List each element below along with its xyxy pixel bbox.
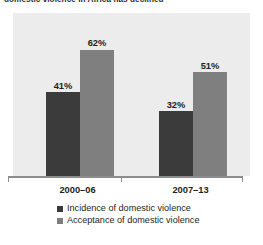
chart-title-text: domestic violence in Africa has declined	[4, 0, 164, 4]
bar-group-2007-13: 32% 51%	[134, 13, 247, 176]
bar-group-bars: 32% 51%	[134, 13, 247, 176]
bar-group-2000-06: 41% 62%	[21, 13, 134, 176]
chart-legend: Incidence of domestic violence Acceptanc…	[57, 203, 257, 227]
x-axis-label-2000-06: 2000–06	[21, 184, 134, 197]
bar-acceptance-2007-13[interactable]: 51%	[193, 72, 227, 176]
x-axis-tick-start	[8, 176, 9, 182]
legend-item-label: Acceptance of domestic violence	[67, 215, 199, 226]
plot-area: 41% 62% 32% 51%	[13, 13, 250, 176]
bar-chart-figure: 41% 62% 32% 51%	[0, 8, 263, 245]
bar-group-bars: 41% 62%	[21, 13, 134, 176]
plot-inner: 41% 62% 32% 51%	[13, 13, 250, 176]
x-axis-labels: 2000–06 2007–13	[13, 184, 250, 198]
x-axis-label-2007-13: 2007–13	[134, 184, 247, 197]
bar-incidence-2007-13[interactable]: 32%	[159, 111, 193, 176]
x-axis-tick-end	[242, 176, 243, 182]
chart-title-cropped: domestic violence in Africa has declined	[0, 0, 263, 8]
x-axis-tick-middle	[121, 176, 122, 182]
x-axis-line	[8, 176, 243, 178]
bar-acceptance-2000-06[interactable]: 62%	[80, 50, 114, 176]
legend-item-incidence[interactable]: Incidence of domestic violence	[57, 203, 257, 214]
bar-value-label: 32%	[167, 101, 186, 110]
legend-swatch-icon	[57, 218, 63, 224]
legend-swatch-icon	[57, 206, 63, 212]
legend-item-label: Incidence of domestic violence	[67, 203, 191, 214]
bar-value-label: 41%	[54, 82, 73, 91]
bar-incidence-2000-06[interactable]: 41%	[46, 92, 80, 176]
legend-item-acceptance[interactable]: Acceptance of domestic violence	[57, 215, 257, 226]
bar-value-label: 62%	[88, 39, 107, 48]
bar-value-label: 51%	[201, 62, 220, 71]
